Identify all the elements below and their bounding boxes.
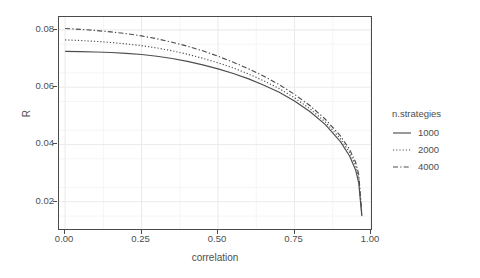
legend-item-2000[interactable]: 2000 [392,141,476,158]
legend-key-dashdot-icon [392,160,412,174]
legend-label: 1000 [418,127,439,138]
series-line-2000 [65,40,362,215]
legend-key-dotted-icon [392,143,412,157]
x-tick-label: 0.75 [272,233,316,244]
y-tick-mark [53,29,57,30]
x-tick-label: 1.00 [348,233,392,244]
x-tick-label: 0.00 [42,233,86,244]
y-tick-label: 0.02 [20,196,54,206]
y-tick-label-group: 0.020.040.060.08 [14,16,54,230]
y-tick-mark [53,201,57,202]
x-tick-label: 0.50 [195,233,239,244]
y-tick-label: 0.08 [20,24,54,34]
legend-item-list: 100020004000 [392,124,476,175]
legend-item-4000[interactable]: 4000 [392,158,476,175]
y-tick-label: 0.04 [20,138,54,148]
legend-title: n.strategies [392,108,476,119]
plot-canvas [59,17,371,229]
plot-panel [58,16,372,230]
series-line-4000 [65,28,362,213]
series-line-1000 [65,51,362,216]
x-tick-label-group: 0.000.250.500.751.00 [58,233,372,247]
y-tick-mark [53,86,57,87]
x-tick-label: 0.25 [119,233,163,244]
y-tick-mark [53,143,57,144]
data-series-group [65,28,362,216]
legend: n.strategies 100020004000 [392,108,476,175]
chart-root: R 0.020.040.060.08 0.000.250.500.751.00 … [0,0,480,278]
y-tick-label: 0.06 [20,81,54,91]
x-axis-title: correlation [58,252,372,263]
legend-label: 4000 [418,161,439,172]
legend-key-solid-icon [392,126,412,140]
legend-item-1000[interactable]: 1000 [392,124,476,141]
legend-label: 2000 [418,144,439,155]
